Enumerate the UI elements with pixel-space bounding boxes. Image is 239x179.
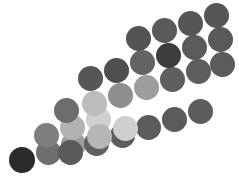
dot-rt-c7 [178, 11, 203, 36]
dot-r0-c4 [104, 58, 129, 83]
dot-r2-c6 [136, 115, 161, 140]
dot-r1-c2 [54, 98, 79, 123]
dot-r1-c7 [186, 59, 211, 84]
dot-r1-c4 [108, 83, 133, 108]
dot-r3-c0 [9, 147, 35, 173]
dot-r3-c3 [58, 140, 83, 165]
dot-r1-c3 [82, 91, 107, 116]
dot-r1-c6 [160, 67, 185, 92]
dot-r2-c8 [188, 99, 213, 124]
dot-r3-c4 [87, 124, 112, 149]
dot-band-figure [0, 0, 239, 179]
dot-rt-c6 [152, 18, 177, 43]
dot-r0-c5 [130, 50, 155, 75]
dot-r1-c5 [134, 75, 159, 100]
dot-edge-a [34, 123, 59, 148]
dot-r1-c8 [210, 52, 235, 77]
dot-r3-c5 [113, 116, 138, 141]
dot-r2-c7 [162, 107, 187, 132]
dot-r0-c7 [182, 35, 207, 60]
dot-r0-c3 [78, 66, 103, 91]
dot-rt-c8 [204, 3, 229, 28]
dot-r0-c8 [208, 27, 233, 52]
dot-r0-c6 [156, 43, 181, 68]
dot-rt-c5 [126, 26, 151, 51]
